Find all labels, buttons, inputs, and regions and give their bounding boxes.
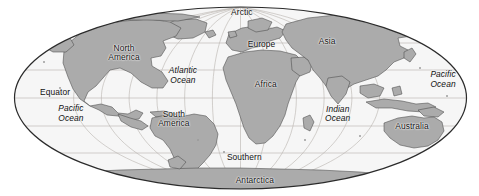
philippines-land: [392, 86, 402, 96]
siberia-east-land: [410, 21, 440, 36]
world-map-graphic: [0, 0, 479, 196]
antarctica-land: [14, 168, 467, 189]
new-zealand-land: [452, 141, 460, 152]
world-map: Arctic North America South America Europ…: [0, 0, 479, 196]
